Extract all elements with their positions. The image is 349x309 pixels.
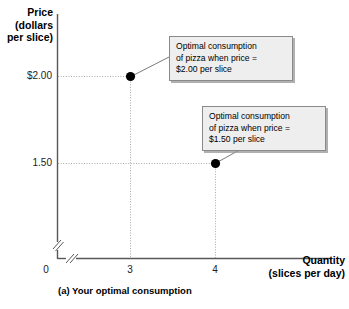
x-axis-title: Quantity (slices per day): [205, 254, 345, 279]
callout-price-200: Optimal consumption of pizza when price …: [169, 36, 293, 81]
leader-line-callout-200: [131, 57, 169, 77]
figure-panel: Price (dollars per slice) Quantity (slic…: [0, 0, 349, 309]
y-tick-label-150: 1.50: [4, 157, 52, 169]
x-tick-label-origin: 0: [36, 264, 56, 276]
y-axis-break-mark-2: [56, 242, 64, 251]
callout-price-150: Optimal consumption of pizza when price …: [202, 106, 326, 151]
x-tick-label-4: 4: [205, 264, 225, 276]
y-axis-title: Price (dollars per slice): [0, 6, 53, 44]
y-tick-label-200: $2.00: [4, 70, 52, 82]
figure-caption: (a) Your optimal consumption: [58, 285, 192, 297]
data-point-q3-p200: [126, 72, 135, 81]
data-point-q4-p150: [211, 159, 220, 168]
x-axis-break-mark-1: [66, 254, 74, 263]
x-tick-label-3: 3: [120, 264, 140, 276]
